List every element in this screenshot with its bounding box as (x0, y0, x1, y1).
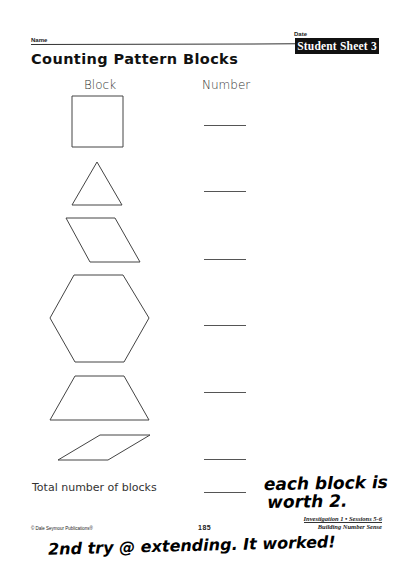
number-blank-square[interactable] (204, 125, 246, 126)
hexagon-block-icon (50, 275, 149, 362)
total-label: Total number of blocks (32, 481, 157, 494)
trapezoid-block-icon (50, 376, 149, 420)
square-block-icon (72, 96, 123, 147)
number-blank-triangle[interactable] (204, 191, 246, 192)
rhombus-block-icon (66, 218, 140, 262)
investigation-label: Investigation 1 • Sessions 5-6 (304, 515, 382, 523)
copyright: © Dale Seymour Publications® (31, 526, 93, 531)
number-blank-rhombus[interactable] (204, 259, 246, 260)
number-blank-hexagon[interactable] (204, 325, 246, 326)
thin-rhombus-block-icon (58, 435, 150, 460)
handwritten-note-right: each block is worth 2. (264, 473, 389, 511)
unit-label: Building Number Sense (290, 523, 382, 530)
page-number: 185 (198, 524, 211, 531)
triangle-block-icon (72, 162, 122, 205)
investigation-footer: Investigation 1 • Sessions 5-6 Building … (290, 515, 382, 530)
number-blank-thin-rhombus[interactable] (204, 459, 246, 460)
number-blank-trapezoid[interactable] (204, 392, 246, 393)
total-blank[interactable] (204, 492, 246, 493)
handwritten-note-line2: worth 2. (264, 491, 388, 511)
